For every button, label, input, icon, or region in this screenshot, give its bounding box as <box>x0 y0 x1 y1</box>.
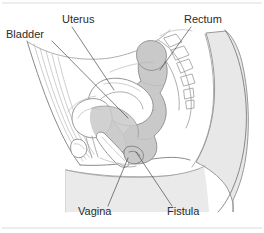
label-uterus: Uterus <box>62 13 95 25</box>
coccyx-segment-1 <box>184 88 194 99</box>
anatomy-diagram: Bladder Uterus Rectum Vagina Fistula <box>0 0 264 233</box>
label-rectum: Rectum <box>184 13 222 25</box>
label-fistula: Fistula <box>167 205 200 217</box>
label-vagina: Vagina <box>78 205 112 217</box>
vertebra-4 <box>181 74 195 86</box>
sigmoid-loop <box>136 41 166 71</box>
pubic-bone-group <box>71 139 87 157</box>
coccyx-segment-2 <box>186 100 194 109</box>
pelvic-anatomy-figure: Bladder Uterus Rectum Vagina Fistula <box>0 0 264 233</box>
label-bladder: Bladder <box>6 28 44 40</box>
pubic-bone <box>71 139 87 157</box>
vertebra-1 <box>164 34 182 47</box>
